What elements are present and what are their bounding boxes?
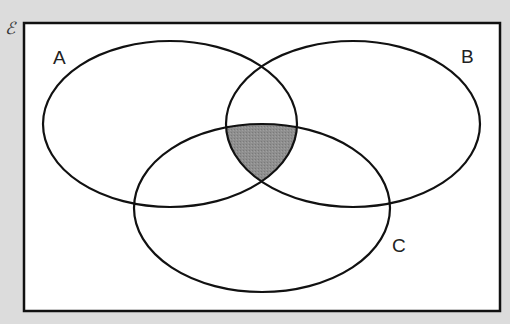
set-a-label: A [53, 47, 66, 68]
venn-diagram: ℰ A B C [0, 0, 510, 324]
universal-set-symbol: ℰ [5, 18, 17, 38]
set-b-label: B [461, 46, 474, 67]
set-c-label: C [392, 235, 406, 256]
venn-svg: ℰ A B C [0, 0, 510, 324]
